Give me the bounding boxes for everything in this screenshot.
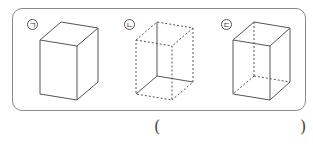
- answer-open-paren: (: [154, 117, 160, 136]
- answer-close-paren: ): [300, 117, 306, 136]
- cube-a: [40, 22, 98, 100]
- cube-c: [233, 22, 290, 100]
- cube-b: [136, 22, 193, 100]
